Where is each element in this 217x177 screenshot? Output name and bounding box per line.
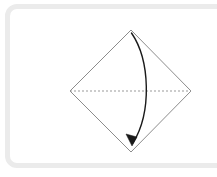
origami-fold-diagram (0, 0, 217, 177)
screenshot-root (0, 0, 217, 177)
diagram-svg (0, 0, 217, 177)
arrowhead-icon (126, 134, 137, 146)
fold-direction-arrow-curve (132, 33, 147, 143)
